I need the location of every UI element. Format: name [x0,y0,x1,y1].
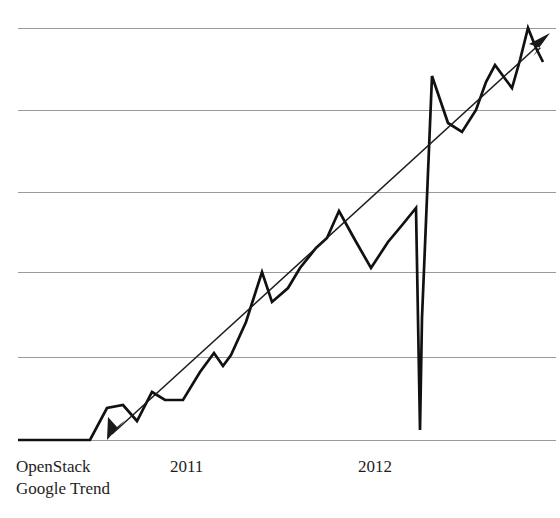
trend-arrow-head-down [107,417,125,440]
gridlines [18,29,556,441]
x-tick-label-2011: 2011 [170,457,203,476]
x-tick-label-2012: 2012 [358,457,392,476]
caption-line-google-trend: Google Trend [16,479,110,498]
caption-line-openstack: OpenStack [16,457,91,476]
chart-caption: OpenStack Google Trend [16,457,110,498]
trend-series-line [18,28,543,440]
google-trend-line-chart: 2011 2012 OpenStack Google Trend [0,0,560,518]
trend-arrow-shaft [112,41,543,434]
trend-arrow-annotation [107,33,550,440]
chart-figure: 2011 2012 OpenStack Google Trend [0,0,560,518]
x-axis-tick-labels: 2011 2012 [170,457,392,476]
